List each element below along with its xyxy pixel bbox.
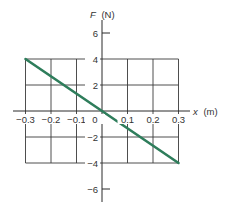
- y-tick-label: 6: [93, 28, 98, 39]
- x-axis-unit: (m): [203, 106, 217, 117]
- force-displacement-chart: −0.3−0.2−0.100.10.20.3642−2−4−6 F (N) x …: [0, 0, 227, 213]
- y-axis-variable: F: [90, 9, 97, 20]
- y-axis-unit: (N): [101, 9, 114, 20]
- x-tick-label: 0: [92, 114, 97, 125]
- x-tick-label: 0.3: [172, 114, 185, 125]
- x-axis-title: x (m): [192, 106, 218, 117]
- y-tick-label: 4: [93, 54, 98, 65]
- x-tick-label: −0.3: [16, 114, 35, 125]
- x-tick-label: 0.1: [121, 114, 134, 125]
- y-tick-label: −4: [87, 158, 98, 169]
- y-axis-title: F (N): [90, 9, 115, 20]
- y-tick-label: 2: [93, 80, 98, 91]
- x-axis-variable: x: [192, 106, 199, 117]
- y-tick-label: −2: [87, 132, 98, 143]
- x-tick-label: −0.2: [42, 114, 61, 125]
- x-tick-label: 0.2: [146, 114, 159, 125]
- x-tick-label: −0.1: [67, 114, 86, 125]
- y-tick-label: −6: [87, 184, 98, 195]
